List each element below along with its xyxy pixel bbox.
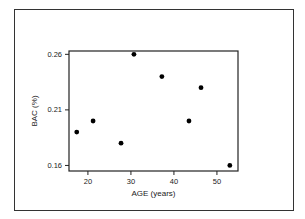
y-tick-label: 0.21	[47, 105, 62, 114]
data-point	[91, 119, 96, 124]
data-point	[74, 130, 79, 135]
x-tick-label: 30	[127, 177, 135, 186]
x-axis-label: AGE (years)	[131, 189, 175, 198]
data-point	[199, 85, 204, 90]
data-point	[119, 141, 124, 146]
y-tick-label: 0.16	[47, 161, 62, 170]
data-points	[74, 52, 232, 168]
x-axis: 20304050	[84, 171, 221, 186]
data-point	[132, 52, 137, 57]
plot-area	[69, 51, 238, 171]
data-point	[187, 119, 192, 124]
y-axis-label: BAC (%)	[30, 95, 39, 126]
data-point	[227, 163, 232, 168]
scatter-chart: 20304050 0.160.210.26 AGE (years) BAC (%…	[0, 0, 305, 219]
y-axis: 0.160.210.26	[47, 50, 69, 170]
x-tick-label: 50	[213, 177, 221, 186]
y-tick-label: 0.26	[47, 50, 62, 59]
data-point	[159, 74, 164, 79]
x-tick-label: 40	[170, 177, 178, 186]
x-tick-label: 20	[84, 177, 92, 186]
